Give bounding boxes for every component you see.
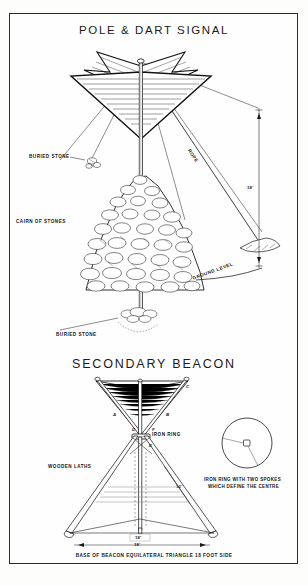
inset-caption-line-2: WHICH DEFINE THE CENTRE (208, 483, 279, 490)
secondary-beacon-group (64, 377, 218, 547)
leg-letter-b: B (166, 412, 169, 417)
leg-letter-d: D (132, 427, 135, 432)
dimension-beacon-base-tick: 18' (135, 535, 141, 540)
label-iron-ring: IRON RING (152, 432, 181, 437)
cairn-of-stones (81, 176, 205, 293)
dart-signal-group (60, 52, 280, 332)
beacon-upper-cone (95, 377, 189, 437)
page-title-pole-dart-signal: POLE & DART SIGNAL (0, 24, 308, 36)
dimension-signal-height: 18' (247, 185, 253, 190)
buried-stone-lower-marker (60, 308, 158, 332)
page-title-secondary-beacon: SECONDARY BEACON (0, 357, 308, 371)
label-buried-stone-lower: BURIED STONE (56, 332, 97, 337)
base-dimension-line (74, 534, 210, 547)
beacon-tripod-legs (66, 436, 216, 533)
leg-letter-a: A (113, 412, 116, 417)
inset-caption-line-1: IRON RING WITH TWO SPOKES (204, 476, 281, 483)
label-buried-stone-upper: BURIED STONE (29, 154, 70, 159)
label-cairn-of-stones: CAIRN OF STONES (16, 219, 66, 224)
diagram-sheet: POLE & DART SIGNAL BURIED STONE CAIRN OF… (0, 0, 308, 586)
label-wooden-laths: WOODEN LATHS (48, 464, 91, 469)
leg-letter-c: C (186, 384, 189, 389)
bottom-caption: BASE OF BEACON EQUILATERAL TRIANGLE 18 F… (0, 553, 308, 558)
dimension-beacon-base: 18' (134, 542, 140, 547)
buried-stone-upper-marker (70, 157, 101, 168)
leg-letter-e: E (149, 443, 152, 448)
dimension-beacon-side: 12' (176, 484, 182, 489)
diagram-artwork (0, 0, 308, 586)
iron-ring-detail-inset (222, 418, 272, 468)
